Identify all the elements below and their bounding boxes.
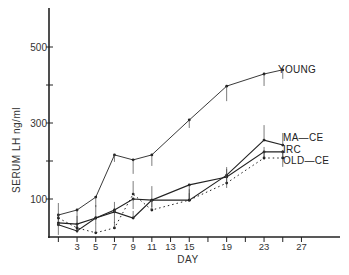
y-tick-label: 300 [30,118,47,129]
series-label: IRC [283,144,301,155]
series-label: OLD—CE [283,155,329,166]
x-tick-label: 11 [147,241,157,252]
x-axis-title: DAY [177,254,198,265]
x-tick-label: 27 [296,241,307,252]
series-labels: YOUNGMA—CEIRCOLD—CE [278,64,329,166]
serum-lh-line-chart: 1003005003579111315192327 YOUNGMA—CEIRCO… [0,0,349,275]
x-tick-label: 13 [165,241,176,252]
x-tick-label: 5 [93,241,98,252]
x-tick-label: 23 [259,241,270,252]
y-tick-label: 500 [30,42,47,53]
series-line-ma-ce [58,140,282,231]
y-tick-label: 100 [30,194,47,205]
series-label: MA—CE [283,132,323,143]
x-tick-label: 9 [131,241,136,252]
series-line-old-ce [58,158,282,233]
y-axis-title: SERUM LH ng/ml [11,107,22,193]
x-tick-label: 19 [221,241,232,252]
series-line-irc [58,152,282,224]
x-tick-label: 7 [112,241,117,252]
series-label: YOUNG [278,64,316,75]
x-tick-label: 3 [74,241,79,252]
series-lines [57,68,284,235]
series-line-young [58,70,282,215]
x-tick-label: 15 [184,241,195,252]
